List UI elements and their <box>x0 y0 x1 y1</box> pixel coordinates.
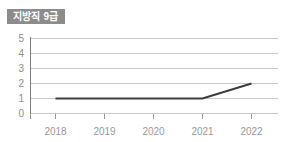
y-tick-label-1: 1 <box>18 93 24 104</box>
y-tick-label-3: 3 <box>18 63 24 74</box>
y-tick-label-0: 0 <box>18 108 24 119</box>
y-tick-label-4: 4 <box>18 48 24 59</box>
chart-canvas: 5 4 3 2 1 0 2018 2019 2020 2021 2022 <box>0 28 289 142</box>
x-tick-label-2021: 2021 <box>191 126 214 137</box>
x-tick-label-2022: 2022 <box>240 126 263 137</box>
x-tick-labels: 2018 2019 2020 2021 2022 <box>44 126 263 137</box>
x-tick-label-2020: 2020 <box>142 126 165 137</box>
line-chart: 5 4 3 2 1 0 2018 2019 2020 2021 2022 <box>0 28 289 142</box>
y-tick-label-5: 5 <box>18 33 24 44</box>
chart-card: 지방직 9급 <box>0 0 289 142</box>
x-tick-label-2018: 2018 <box>44 126 67 137</box>
chart-title-badge: 지방직 9급 <box>7 9 65 24</box>
y-tick-labels: 5 4 3 2 1 0 <box>18 33 24 119</box>
x-tick-label-2019: 2019 <box>93 126 116 137</box>
y-tick-label-2: 2 <box>18 78 24 89</box>
x-tickmarks <box>31 114 252 120</box>
gridlines <box>31 39 279 114</box>
series-line-jibangjik-9geup <box>56 84 252 99</box>
